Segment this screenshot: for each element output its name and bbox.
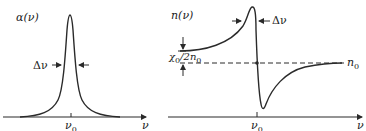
left-title-alpha: α(ν) [16, 12, 39, 23]
n0-label: n0 [347, 57, 359, 71]
right-x-axis-label: ν [357, 120, 364, 131]
left-x-axis-label: ν [142, 120, 149, 131]
left-delta-nu-label: Δν [33, 60, 48, 71]
right-nu0-label: ν0 [251, 120, 263, 131]
right-delta-nu-label: Δν [272, 15, 287, 26]
delta-symbol: Δν [33, 59, 48, 72]
left-absorption-plot [3, 15, 146, 117]
left-nu0-label: ν0 [65, 120, 77, 131]
offset-label: χ0/2n0 [169, 52, 201, 65]
dispersion-curve [180, 7, 342, 109]
right-title-n: n(ν) [171, 10, 193, 21]
